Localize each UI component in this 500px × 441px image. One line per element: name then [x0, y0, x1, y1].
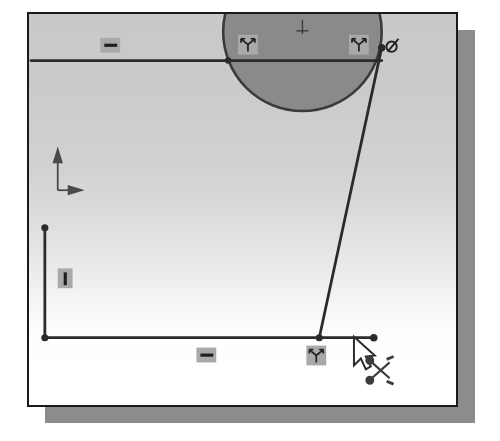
vertical-constraint-left[interactable] [58, 268, 73, 288]
cad-sketch-screenshot [0, 0, 500, 441]
x-axis-arrowhead [69, 186, 82, 194]
endpoint-corner-bottom-left[interactable] [41, 334, 48, 341]
tangent-constraint[interactable] [386, 39, 398, 52]
horizontal-constraint-icon [104, 44, 117, 47]
endpoint-line-right[interactable] [370, 334, 378, 342]
coincident-constraint-bottom[interactable] [306, 346, 326, 366]
coincident-constraint-circle-left[interactable] [238, 35, 258, 55]
horizontal-constraint-top[interactable] [100, 38, 120, 53]
horizontal-constraint-bottom[interactable] [196, 348, 216, 363]
trim-cursor [354, 337, 394, 385]
tangent-constraint-icon [386, 39, 398, 52]
origin-axis-tripod [54, 150, 82, 195]
cad-graphics-window[interactable] [27, 12, 458, 407]
vertical-constraint-icon [64, 272, 67, 285]
endpoint-circle-left-quadrant[interactable] [225, 57, 231, 63]
horizontal-constraint-icon [200, 354, 213, 357]
y-axis-arrowhead [54, 150, 62, 163]
scissors-icon [366, 356, 393, 384]
endpoint-slant-top[interactable] [378, 44, 386, 52]
endpoint-vertical-top[interactable] [41, 224, 48, 231]
sketch-canvas[interactable] [29, 14, 456, 405]
endpoint-slant-bottom[interactable] [316, 334, 323, 341]
coincident-constraint-circle-right[interactable] [349, 35, 369, 55]
